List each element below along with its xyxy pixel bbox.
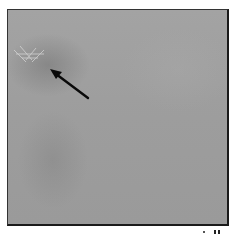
crosshatch-feature	[14, 46, 44, 62]
arrow-icon	[50, 69, 88, 98]
corner-mark	[203, 231, 205, 233]
corner-mark	[218, 230, 220, 234]
annotation-layer	[0, 0, 235, 238]
corner-mark	[214, 230, 216, 234]
